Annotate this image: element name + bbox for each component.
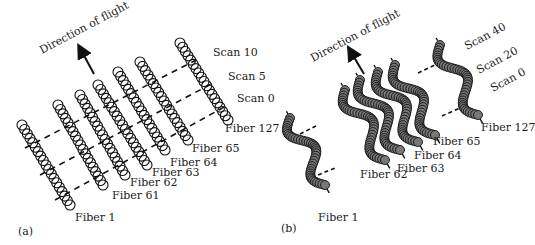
fiber-label-1-b: Fiber 1 <box>318 211 358 224</box>
scan-label-40: Scan 40 <box>462 20 508 53</box>
direction-label-a: Direction of flight <box>37 0 131 57</box>
fiber-columns-a <box>17 38 233 210</box>
fiber-label-127-b: Fiber 127 <box>481 121 535 134</box>
fiber-label-64-b: Fiber 64 <box>414 149 461 162</box>
scan-label-0-b: Scan 0 <box>488 65 528 94</box>
fiber-label-62: Fiber 62 <box>130 176 177 189</box>
fiber-label-65: Fiber 65 <box>192 142 239 155</box>
scan-label-10: Scan 10 <box>213 46 258 59</box>
fiber-label-1: Fiber 1 <box>75 211 115 224</box>
panel-label-a: (a) <box>18 225 33 238</box>
fiber-label-61: Fiber 61 <box>112 189 159 202</box>
fiber-label-65-b: Fiber 65 <box>433 135 480 148</box>
flight-direction-arrow-a <box>81 50 94 74</box>
scan-label-0: Scan 0 <box>237 92 275 105</box>
scan-label-5: Scan 5 <box>228 70 266 83</box>
flight-direction-arrow-b <box>351 52 364 74</box>
fiber-label-127: Fiber 127 <box>225 122 279 135</box>
fiber-label-62-b: Fiber 62 <box>360 168 407 181</box>
fiber-scan-diagram: Direction of flight Scan 10 Scan 5 Scan … <box>0 0 535 245</box>
panel-label-b: (b) <box>281 222 297 235</box>
direction-label-b: Direction of flight <box>308 6 402 64</box>
panel-b: Direction of flight Scan 40 Scan 20 Scan… <box>281 6 535 235</box>
panel-a: Direction of flight Scan 10 Scan 5 Scan … <box>17 0 279 238</box>
